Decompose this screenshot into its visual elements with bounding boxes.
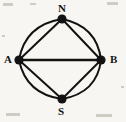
- scan-speck-2: [30, 3, 36, 5]
- graph-node-S: [57, 94, 66, 103]
- node-label-B: B: [110, 54, 117, 65]
- scan-speck-5: [2, 35, 5, 37]
- graph-node-A: [14, 55, 23, 64]
- scan-speck-4: [96, 114, 112, 117]
- scan-speck-6: [121, 86, 124, 88]
- scan-speck-1: [107, 2, 118, 5]
- node-label-A: A: [4, 54, 12, 65]
- scan-speck-0: [3, 3, 13, 6]
- scan-speck-3: [6, 113, 20, 116]
- node-label-S: S: [58, 106, 64, 117]
- graph-figure: NABS: [0, 0, 126, 122]
- edge-layer: [19, 19, 101, 99]
- graph-canvas: [0, 0, 126, 122]
- graph-edge-A-N-chord: [19, 19, 62, 60]
- node-label-N: N: [58, 3, 66, 14]
- graph-node-N: [57, 14, 66, 23]
- graph-node-B: [96, 55, 105, 64]
